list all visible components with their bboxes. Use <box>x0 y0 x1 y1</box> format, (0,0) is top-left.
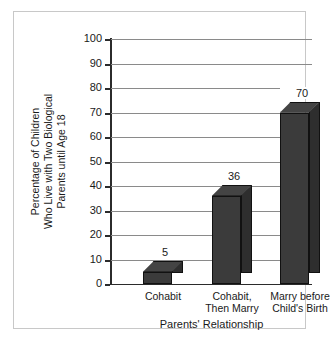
category-label-line: Child's Birth <box>258 302 334 314</box>
y-axis-tick <box>105 235 110 237</box>
x-axis-title: Parents' Relationship <box>111 318 312 330</box>
y-axis-title-line: Parents until Age 18 <box>55 67 68 257</box>
bar-value-label: 70 <box>280 87 324 99</box>
y-axis-title-line: Who Live with Two Biological <box>42 67 55 257</box>
y-axis-tick-label: 60 <box>68 131 102 142</box>
y-axis-tick <box>105 186 110 188</box>
y-axis-tick-labels: 0102030405060708090100 <box>66 12 102 342</box>
y-axis-tick <box>105 211 110 213</box>
bar <box>280 102 320 285</box>
bar <box>143 261 183 284</box>
y-axis-tick-label: 90 <box>68 58 102 69</box>
y-axis-tick <box>105 162 110 164</box>
y-axis-tick-label: 0 <box>68 278 102 289</box>
category-label-line: Marry before <box>258 290 334 302</box>
y-axis-title-line: Percentage of Children <box>29 67 42 257</box>
gridline <box>111 64 312 65</box>
y-axis-tick-label: 20 <box>68 229 102 240</box>
gridline <box>111 39 312 40</box>
bar-side-face <box>309 102 320 274</box>
bar-value-label: 5 <box>143 246 187 258</box>
bar <box>212 185 252 284</box>
y-axis-tick-label: 100 <box>68 33 102 44</box>
y-axis-tick <box>105 64 110 66</box>
y-axis-tick-label: 30 <box>68 205 102 216</box>
bar-front-face <box>212 196 241 284</box>
bar-front-face <box>143 272 172 284</box>
y-axis-tick-label: 70 <box>68 107 102 118</box>
bar-front-face <box>280 113 309 285</box>
plot-area <box>111 39 312 284</box>
chart-frame: 0102030405060708090100 Percentage of Chi… <box>13 11 306 329</box>
y-axis-tick <box>105 39 110 41</box>
y-axis-tick-label: 50 <box>68 156 102 167</box>
y-axis-tick-label: 80 <box>68 82 102 93</box>
y-axis-tick <box>105 284 110 286</box>
y-axis-tick-label: 40 <box>68 180 102 191</box>
x-axis-category-label: Marry beforeChild's Birth <box>258 290 334 314</box>
y-axis-tick-label: 10 <box>68 254 102 265</box>
y-axis-tick <box>105 137 110 139</box>
y-axis-tick <box>105 113 110 115</box>
bar-value-label: 36 <box>212 170 256 182</box>
y-axis-tick <box>105 260 110 262</box>
y-axis-title: Percentage of ChildrenWho Live with Two … <box>29 67 68 257</box>
y-axis-tick <box>105 88 110 90</box>
axis-baseline <box>111 284 312 285</box>
bar-side-face <box>241 185 252 273</box>
